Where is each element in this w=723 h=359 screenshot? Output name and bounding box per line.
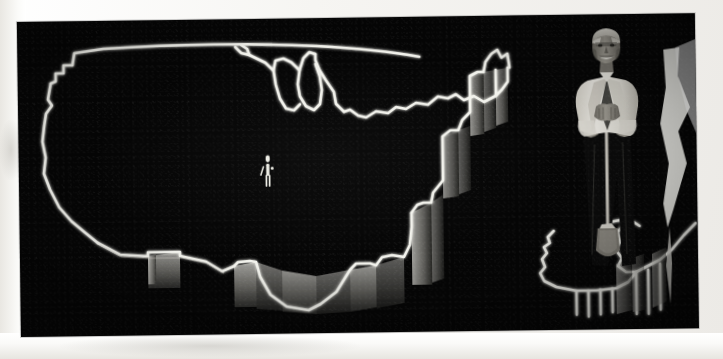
paper-smudge-bottom <box>60 335 360 357</box>
photograph-scene: Darkened stage with a glowing white outl… <box>0 0 723 359</box>
man-figure <box>575 28 641 267</box>
photograph-frame: Darkened stage with a glowing white outl… <box>17 13 699 337</box>
man-with-shovel <box>17 13 699 337</box>
photograph: Darkened stage with a glowing white outl… <box>17 13 699 337</box>
